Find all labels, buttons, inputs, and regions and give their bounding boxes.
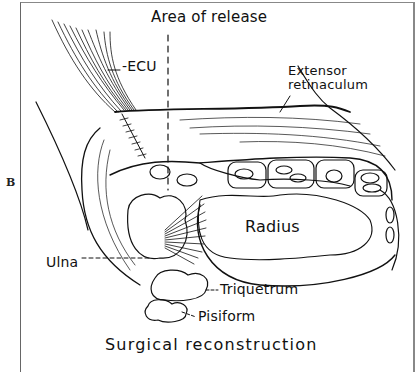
label-extensor-line2: retinaculum <box>288 78 368 92</box>
label-radius: Radius <box>245 217 300 236</box>
label-ecu: -ECU <box>122 58 157 74</box>
label-area-of-release: Area of release <box>151 8 267 26</box>
label-ulna: Ulna <box>46 254 78 270</box>
figure-caption: Surgical reconstruction <box>105 335 318 354</box>
label-extensor-line1: Extensor <box>288 64 368 78</box>
label-triquetrum: Triquetrum <box>220 281 298 297</box>
label-pisiform: Pisiform <box>198 308 255 324</box>
label-extensor-retinaculum: Extensor retinaculum <box>288 64 368 92</box>
